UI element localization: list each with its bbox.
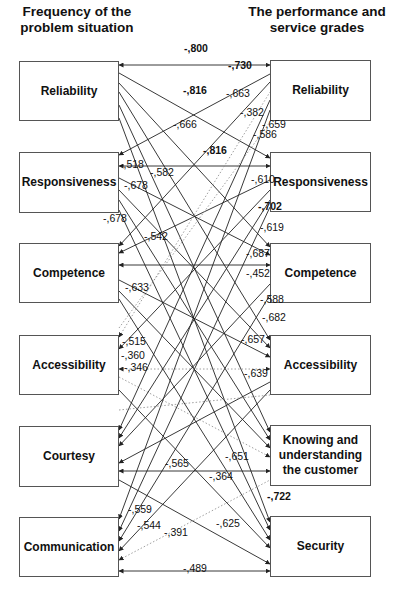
path-edge <box>119 122 270 328</box>
coefficient-label: -,678 <box>124 180 148 191</box>
coefficient-label: -,382 <box>240 107 264 118</box>
coefficient-label: -,639 <box>244 368 268 379</box>
coefficient-label: -,657 <box>241 334 265 345</box>
right-box-security: Security <box>270 516 371 577</box>
coefficient-label: -,544 <box>137 520 161 531</box>
box-label: Courtesy <box>43 449 95 464</box>
coefficient-label: -,391 <box>164 527 188 538</box>
box-label: Competence <box>284 266 356 281</box>
box-label: Responsiveness <box>273 175 368 190</box>
coefficient-label: -,816 <box>203 145 227 156</box>
coefficient-label: -,586 <box>253 129 277 140</box>
coefficient-label: -,346 <box>124 362 148 373</box>
coefficient-label: -,651 <box>225 451 249 462</box>
right-box-accessibility: Accessibility <box>270 335 371 395</box>
box-label: Reliability <box>41 84 98 99</box>
left-box-competence: Competence <box>19 243 119 303</box>
coefficient-label: -,489 <box>183 563 207 574</box>
box-label: Communication <box>24 540 115 555</box>
right-box-responsiveness: Responsiveness <box>270 152 371 212</box>
coefficient-label: -,542 <box>144 231 168 242</box>
coefficient-label: -,360 <box>121 350 145 361</box>
box-label: Accessibility <box>284 358 357 373</box>
coefficient-label: -,816 <box>183 85 207 96</box>
coefficient-label: -,364 <box>209 471 233 482</box>
left-box-responsiveness: Responsiveness <box>19 152 119 213</box>
coefficient-label: -,610 <box>251 174 275 185</box>
coefficient-label: -,722 <box>267 491 291 502</box>
coefficient-label: -,619 <box>260 222 284 233</box>
left-box-reliability: Reliability <box>19 61 119 121</box>
left-box-courtesy: Courtesy <box>19 426 119 487</box>
coefficient-label: -,559 <box>128 504 152 515</box>
coefficient-label: -,582 <box>150 167 174 178</box>
coefficient-label: -,518 <box>120 159 144 170</box>
coefficient-label: -,565 <box>165 458 189 469</box>
box-label: Accessibility <box>32 358 105 373</box>
coefficient-label: -,452 <box>246 268 270 279</box>
coefficient-label: -,625 <box>216 518 240 529</box>
coefficient-label: -,663 <box>226 88 250 99</box>
coefficient-label: -,666 <box>173 119 197 130</box>
coefficient-label: -,730 <box>228 60 252 71</box>
box-label: Security <box>297 539 344 554</box>
left-box-communication: Communication <box>19 517 119 577</box>
coefficient-label: -,682 <box>262 312 286 323</box>
path-edge <box>119 377 270 457</box>
box-label: Reliability <box>292 83 349 98</box>
coefficient-label: -,633 <box>125 282 149 293</box>
right-box-competence: Competence <box>270 243 371 303</box>
coefficient-label: -,687 <box>246 248 270 259</box>
coefficient-label: -,588 <box>260 294 284 305</box>
right-box-reliability: Reliability <box>270 60 371 121</box>
box-label: Competence <box>33 266 105 281</box>
left-box-accessibility: Accessibility <box>19 335 119 395</box>
coefficient-label: -,800 <box>184 43 208 54</box>
box-label: Knowing and understanding the customer <box>279 433 363 478</box>
right-box-knowing-and-understanding-the-customer: Knowing and understanding the customer <box>270 425 371 486</box>
box-label: Responsiveness <box>22 175 117 190</box>
coefficient-label: -,702 <box>258 201 282 212</box>
coefficient-label: -,515 <box>122 336 146 347</box>
coefficient-label: -,678 <box>103 213 127 224</box>
